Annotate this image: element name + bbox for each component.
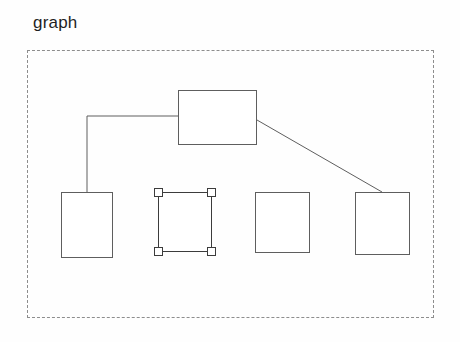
diagram-canvas[interactable]: graph: [0, 0, 460, 342]
resize-handle-ne[interactable]: [207, 188, 216, 197]
resize-handle-nw[interactable]: [154, 188, 163, 197]
group-title-label: graph: [33, 13, 77, 33]
resize-handle-se[interactable]: [207, 247, 216, 256]
node-child-2[interactable]: [158, 192, 212, 252]
node-child-1[interactable]: [61, 192, 113, 258]
resize-handle-sw[interactable]: [154, 247, 163, 256]
node-child-3[interactable]: [255, 192, 310, 253]
node-child-4[interactable]: [355, 192, 410, 255]
node-parent[interactable]: [178, 90, 257, 145]
